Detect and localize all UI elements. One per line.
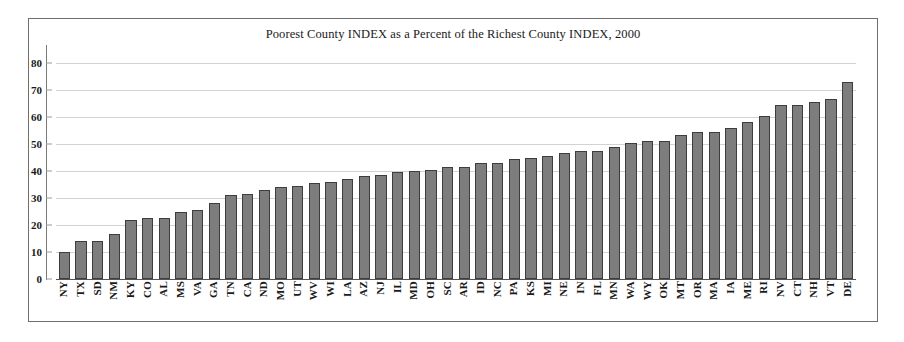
bar-nd[interactable] [259,190,270,279]
y-tick-label: 30 [31,192,42,204]
bar-mi[interactable] [542,156,553,279]
y-tick-mark [46,144,52,145]
x-tick-label-ri: RI [758,281,769,294]
bar-il[interactable] [392,172,403,279]
bar-tx[interactable] [75,241,86,279]
x-tick-label-nd: ND [258,281,269,297]
bar-ia[interactable] [725,128,736,279]
bar-slot [775,63,786,279]
y-axis-line [46,45,47,280]
y-tick-mark [46,117,52,118]
bar-or[interactable] [692,132,703,279]
x-tick-label-wa: WA [625,281,636,299]
y-tick-mark [46,90,52,91]
bar-pa[interactable] [509,159,520,279]
y-tick-label: 20 [31,219,42,231]
y-tick-mark [46,171,52,172]
bar-ri[interactable] [759,116,770,279]
bar-slot [809,63,820,279]
bar-slot [309,63,320,279]
bar-al[interactable] [159,218,170,279]
x-tick-label-ok: OK [658,281,669,299]
x-tick-label-nc: NC [492,281,503,297]
bar-wi[interactable] [325,182,336,279]
y-tick-label: 40 [31,165,42,177]
bar-slot [675,63,686,279]
bar-nh[interactable] [809,102,820,279]
bar-slot [559,63,570,279]
bar-nc[interactable] [492,163,503,279]
bar-slot [359,63,370,279]
x-tick-label-la: LA [342,281,353,297]
bar-vt[interactable] [825,99,836,279]
x-tick-label-ms: MS [175,281,186,298]
bar-co[interactable] [142,218,153,279]
x-tick-label-wv: WV [308,281,319,300]
bar-ny[interactable] [59,252,70,279]
bar-slot [692,63,703,279]
bar-slot [825,63,836,279]
bar-nm[interactable] [109,234,120,279]
bar-ms[interactable] [175,212,186,280]
bar-nj[interactable] [375,175,386,279]
bar-ca[interactable] [242,194,253,279]
bar-nv[interactable] [775,105,786,279]
bar-slot [442,63,453,279]
bar-slot [459,63,470,279]
bar-slot [525,63,536,279]
bar-slot [175,63,186,279]
bar-id[interactable] [475,163,486,279]
x-axis-baseline [56,279,856,280]
bar-md[interactable] [409,171,420,279]
bar-la[interactable] [342,179,353,279]
x-tick-label-pa: PA [508,281,519,295]
bar-mt[interactable] [675,135,686,279]
bar-ok[interactable] [659,141,670,279]
bar-slot [292,63,303,279]
bar-slot [709,63,720,279]
x-tick-label-mo: MO [275,281,286,300]
x-tick-label-nh: NH [808,281,819,298]
bar-ne[interactable] [559,153,570,279]
bar-ut[interactable] [292,186,303,279]
y-tick-mark [46,252,52,253]
bar-tn[interactable] [225,195,236,279]
bar-slot [509,63,520,279]
bar-de[interactable] [842,82,853,279]
x-tick-label-ct: CT [792,281,803,297]
bar-in[interactable] [575,151,586,279]
bar-slot [409,63,420,279]
bar-ar[interactable] [459,167,470,279]
bar-ma[interactable] [709,132,720,279]
bar-sc[interactable] [442,167,453,279]
bars-layer [56,63,856,279]
y-tick-label: 80 [31,57,42,69]
bar-sd[interactable] [92,241,103,279]
bar-me[interactable] [742,122,753,279]
x-tick-label-ga: GA [208,281,219,298]
x-tick-label-ma: MA [708,281,719,300]
plot-area: 80706050403020100 [56,63,856,279]
bar-ky[interactable] [125,220,136,279]
bar-az[interactable] [359,176,370,279]
bar-wy[interactable] [642,141,653,279]
bar-ga[interactable] [209,203,220,279]
bar-wv[interactable] [309,183,320,279]
bar-ct[interactable] [792,105,803,279]
x-tick-label-ia: IA [725,281,736,294]
y-tick-label: 70 [31,84,42,96]
bar-mn[interactable] [609,147,620,279]
y-tick-mark [46,279,52,280]
bar-va[interactable] [192,210,203,279]
bar-oh[interactable] [425,170,436,279]
bar-mo[interactable] [275,187,286,279]
bar-wa[interactable] [625,143,636,279]
bar-slot [192,63,203,279]
chart-title: Poorest County INDEX as a Percent of the… [29,27,877,42]
bar-ks[interactable] [525,158,536,280]
bar-slot [725,63,736,279]
x-tick-label-ky: KY [125,281,136,298]
bar-slot [109,63,120,279]
bar-fl[interactable] [592,151,603,279]
x-tick-label-fl: FL [592,281,603,295]
